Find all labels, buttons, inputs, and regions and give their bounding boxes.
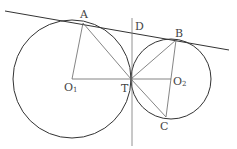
label-c: C <box>160 120 168 133</box>
label-o2: O2 <box>173 75 187 88</box>
segment-o1-a <box>72 23 83 79</box>
label-b: B <box>175 27 183 40</box>
segment-t-b <box>131 40 176 79</box>
label-t: T <box>121 82 129 95</box>
label-d: D <box>135 20 144 33</box>
tangent-circles-diagram: A B C D T O1 O2 <box>0 0 237 149</box>
label-o1: O1 <box>64 81 78 94</box>
label-a: A <box>79 8 89 21</box>
